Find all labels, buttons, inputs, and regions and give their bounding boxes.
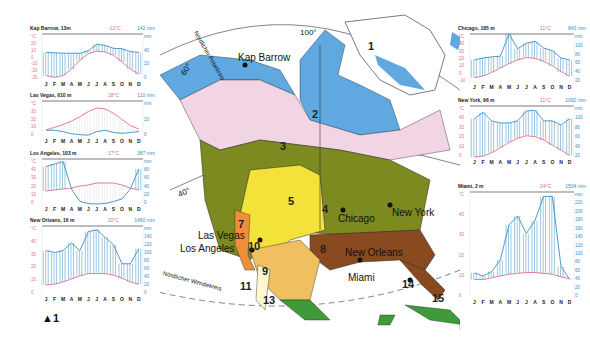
city-label-chicago: Chicago bbox=[338, 213, 375, 224]
svg-text:S: S bbox=[112, 296, 116, 302]
zone-7: 7 bbox=[238, 218, 244, 230]
svg-text:D: D bbox=[568, 159, 572, 165]
annual-temp: 11°C bbox=[540, 25, 551, 31]
svg-text:40: 40 bbox=[144, 48, 150, 53]
svg-text:M: M bbox=[490, 299, 494, 305]
zone-8: 8 bbox=[320, 243, 326, 255]
chart-miami: Miami, 2 m 24°C 1504 mm JFMAMJJASOND°C40… bbox=[458, 183, 586, 305]
svg-text:-10: -10 bbox=[459, 78, 466, 83]
svg-text:mm: mm bbox=[575, 192, 583, 197]
svg-text:mm: mm bbox=[144, 159, 152, 164]
svg-text:A: A bbox=[533, 159, 537, 165]
svg-text:20: 20 bbox=[31, 41, 37, 46]
svg-text:F: F bbox=[53, 81, 56, 87]
svg-text:S: S bbox=[542, 159, 546, 165]
chart-new-york: New York, 96 m 11°C 1092 mm JFMAMJJASOND… bbox=[458, 97, 586, 165]
city-label-kap-barrow: Kap Barrow bbox=[238, 52, 290, 63]
svg-text:A: A bbox=[70, 81, 74, 87]
chart-title: Los Angeles, 103 m bbox=[30, 150, 77, 156]
svg-text:J: J bbox=[45, 138, 48, 144]
svg-text:J: J bbox=[87, 296, 90, 302]
city-label-miami: Miami bbox=[348, 272, 375, 283]
svg-text:N: N bbox=[129, 296, 133, 302]
svg-text:20: 20 bbox=[144, 282, 150, 287]
svg-text:0: 0 bbox=[144, 132, 147, 137]
svg-text:F: F bbox=[53, 138, 56, 144]
svg-text:20: 20 bbox=[144, 117, 150, 122]
city-label-las-vegas: Las Vegas bbox=[198, 230, 245, 241]
svg-text:100: 100 bbox=[144, 250, 152, 255]
svg-text:M: M bbox=[61, 296, 65, 302]
svg-text:M: M bbox=[78, 206, 82, 212]
svg-text:40: 40 bbox=[575, 276, 581, 281]
svg-text:M: M bbox=[490, 84, 494, 90]
svg-text:J: J bbox=[95, 81, 98, 87]
city-label-new-orleans: New Orleans bbox=[345, 247, 403, 258]
svg-text:M: M bbox=[507, 84, 511, 90]
svg-text:160: 160 bbox=[575, 226, 583, 231]
svg-text:A: A bbox=[103, 296, 107, 302]
svg-text:F: F bbox=[53, 296, 56, 302]
svg-text:20: 20 bbox=[144, 61, 150, 66]
svg-text:J: J bbox=[95, 296, 98, 302]
svg-text:60: 60 bbox=[575, 134, 581, 139]
svg-text:°C: °C bbox=[31, 159, 37, 164]
vegetation-map-north-america: Kap Barrow Las Vegas Los Angeles Chicago… bbox=[160, 0, 460, 339]
svg-text:0: 0 bbox=[575, 293, 578, 298]
zone-10: 10 bbox=[248, 240, 260, 252]
annual-temp: 20°C bbox=[108, 217, 119, 223]
svg-text:M: M bbox=[61, 206, 65, 212]
svg-text:mm: mm bbox=[575, 106, 583, 111]
footnote-marker: ▲1 bbox=[42, 312, 59, 324]
svg-text:O: O bbox=[120, 81, 124, 87]
svg-text:N: N bbox=[559, 159, 563, 165]
svg-text:M: M bbox=[78, 138, 82, 144]
svg-text:80: 80 bbox=[575, 52, 581, 57]
svg-text:O: O bbox=[550, 84, 554, 90]
svg-text:mm: mm bbox=[144, 34, 152, 39]
svg-text:180: 180 bbox=[575, 217, 583, 222]
zone-11: 11 bbox=[240, 280, 252, 292]
svg-text:40: 40 bbox=[31, 167, 37, 172]
svg-text:100: 100 bbox=[575, 43, 583, 48]
svg-text:40: 40 bbox=[575, 69, 581, 74]
annual-precip: 1460 mm bbox=[134, 217, 155, 223]
svg-text:J: J bbox=[473, 159, 476, 165]
svg-text:mm: mm bbox=[144, 101, 152, 106]
svg-text:N: N bbox=[129, 81, 133, 87]
svg-text:40: 40 bbox=[575, 144, 581, 149]
svg-text:0: 0 bbox=[144, 200, 147, 205]
zone-5: 5 bbox=[288, 195, 294, 207]
chart-kap-barrow: Kap Barrow, 13m -12°C 142 mm JFMAMJJASON… bbox=[30, 25, 155, 87]
svg-text:40: 40 bbox=[144, 184, 150, 189]
svg-text:S: S bbox=[112, 206, 116, 212]
svg-text:200: 200 bbox=[575, 209, 583, 214]
svg-text:J: J bbox=[87, 81, 90, 87]
annual-temp: 17°C bbox=[108, 150, 119, 156]
svg-text:N: N bbox=[559, 84, 563, 90]
svg-text:A: A bbox=[499, 84, 503, 90]
svg-text:0: 0 bbox=[31, 200, 34, 205]
annual-temp: -12°C bbox=[108, 25, 121, 31]
svg-text:20: 20 bbox=[575, 153, 581, 158]
zone-2: 2 bbox=[312, 108, 318, 120]
svg-text:A: A bbox=[533, 84, 537, 90]
svg-text:M: M bbox=[78, 296, 82, 302]
svg-text:J: J bbox=[525, 159, 528, 165]
city-label-los-angeles: Los Angeles bbox=[180, 243, 235, 254]
svg-text:J: J bbox=[95, 138, 98, 144]
svg-text:A: A bbox=[499, 299, 503, 305]
svg-text:S: S bbox=[542, 299, 546, 305]
svg-text:mm: mm bbox=[575, 34, 583, 39]
svg-text:J: J bbox=[45, 81, 48, 87]
svg-text:140: 140 bbox=[575, 234, 583, 239]
svg-text:80: 80 bbox=[575, 125, 581, 130]
svg-text:80: 80 bbox=[144, 258, 150, 263]
svg-text:A: A bbox=[533, 299, 537, 305]
svg-text:M: M bbox=[61, 138, 65, 144]
svg-text:S: S bbox=[542, 84, 546, 90]
zone-14: 14 bbox=[402, 278, 414, 290]
zone-15: 15 bbox=[432, 292, 444, 304]
svg-text:J: J bbox=[473, 84, 476, 90]
svg-text:°C: °C bbox=[31, 226, 37, 231]
